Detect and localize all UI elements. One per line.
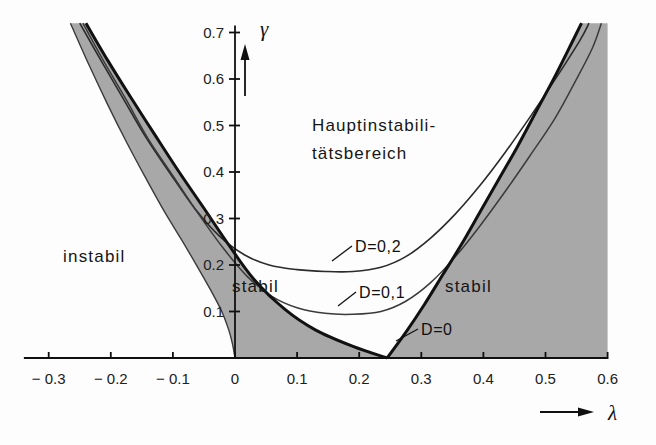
x-tick-label: − 0.2 [94, 370, 128, 387]
leader-d-0-1 [338, 292, 356, 306]
x-tick-label: 0 [231, 370, 239, 387]
x-tick-label: − 0.3 [32, 370, 66, 387]
y-tick-label: 0.5 [203, 117, 224, 134]
label-hauptinstabil-line2: tätsbereich [312, 144, 407, 163]
y-tick-label: 0.3 [203, 210, 224, 227]
label-curve-d-0: D=0 [421, 321, 453, 338]
x-tick-label: 0.6 [597, 370, 618, 387]
y-axis-name: γ [260, 17, 269, 41]
x-tick-label: 0.5 [535, 370, 556, 387]
x-tick-label: 0.2 [349, 370, 370, 387]
y-tick-label: 0.2 [203, 256, 224, 273]
label-curve-d-0-1: D=0,1 [359, 284, 405, 301]
y-tick-label: 0.7 [203, 24, 224, 41]
x-axis-tick-labels: − 0.3− 0.2− 0.100.10.20.30.40.50.6 [32, 370, 618, 387]
y-tick-label: 0.6 [203, 70, 224, 87]
x-axis-arrow [540, 408, 594, 417]
x-tick-label: 0.3 [411, 370, 432, 387]
figure-canvas: − 0.3− 0.2− 0.100.10.20.30.40.50.6 0.10.… [0, 0, 656, 445]
x-axis-name: λ [607, 401, 617, 425]
label-instabil-left: instabil [63, 247, 126, 266]
label-stabil-left: stabil [232, 277, 279, 296]
leader-d-0-2 [332, 246, 352, 261]
y-axis-arrow [241, 44, 250, 96]
x-tick-label: 0.4 [473, 370, 494, 387]
shaded-stable-regions [70, 23, 607, 358]
y-tick-label: 0.1 [203, 303, 224, 320]
region-stabil-right-fill [387, 23, 607, 358]
label-stabil-right: stabil [445, 277, 492, 296]
region-stabil-left-fill [70, 23, 387, 358]
label-hauptinstabil-line1: Hauptinstabili- [312, 116, 436, 135]
label-curve-d-0-2: D=0,2 [355, 238, 401, 255]
y-tick-label: 0.4 [203, 163, 224, 180]
stability-chart: − 0.3− 0.2− 0.100.10.20.30.40.50.6 0.10.… [0, 0, 656, 445]
x-tick-label: 0.1 [287, 370, 308, 387]
x-tick-label: − 0.1 [156, 370, 190, 387]
